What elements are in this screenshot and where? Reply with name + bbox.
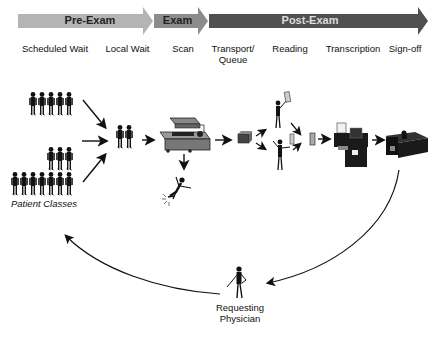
signoff-desk-icon xyxy=(385,131,428,159)
phase-label-pre-exam: Pre-Exam xyxy=(40,14,140,26)
local-wait-patients xyxy=(116,125,133,148)
stage-transport-line: Transport/ xyxy=(208,43,258,54)
caption-physician-line2: Physician xyxy=(205,313,275,324)
film-icon xyxy=(310,133,315,145)
reader-figure-2-icon xyxy=(273,134,294,170)
failed-scan-figure-icon xyxy=(162,177,191,206)
queue-box-icon xyxy=(238,131,252,143)
stage-scheduled-wait: Scheduled Wait xyxy=(18,43,92,54)
caption-physician-line1: Requesting xyxy=(205,302,275,313)
physician-figure-icon xyxy=(227,266,246,298)
stage-transport-queue: Transport/ Queue xyxy=(208,43,258,65)
patient-class-group-3 xyxy=(11,172,73,195)
arrow-group1-to-local xyxy=(83,100,105,127)
reader-figure-1-icon xyxy=(276,92,291,128)
patient-class-group-1 xyxy=(29,92,73,115)
scanner-icon xyxy=(160,118,210,153)
stage-reading: Reading xyxy=(268,43,312,54)
phase-label-exam: Exam xyxy=(155,14,200,26)
arrow-queue-to-reader1 xyxy=(256,130,265,136)
stage-queue-line: Queue xyxy=(208,54,258,65)
arrow-physician-to-patients xyxy=(66,236,220,294)
arrow-reader2-to-film xyxy=(293,144,300,150)
stage-transcription: Transcription xyxy=(321,43,385,54)
caption-requesting-physician: Requesting Physician xyxy=(205,302,275,324)
stage-scan: Scan xyxy=(165,43,201,54)
phase-label-post-exam: Post-Exam xyxy=(240,14,380,26)
patient-class-group-2 xyxy=(47,147,73,170)
caption-patient-classes: Patient Classes xyxy=(6,198,82,209)
arrow-queue-to-reader2 xyxy=(256,143,265,149)
transcription-desk-icon xyxy=(334,123,368,167)
stage-local-wait: Local Wait xyxy=(100,43,155,54)
stage-sign-off: Sign-off xyxy=(383,43,427,54)
arrow-reader1-to-film xyxy=(291,123,300,134)
arrow-group3-to-local xyxy=(83,155,105,182)
arrow-signoff-to-physician xyxy=(268,170,399,283)
